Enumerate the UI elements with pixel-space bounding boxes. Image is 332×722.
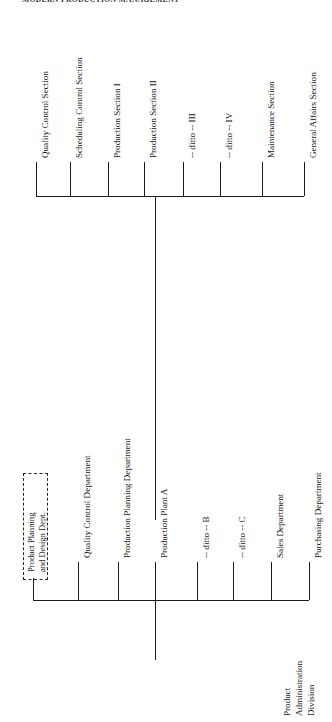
level2-spine [36,196,304,197]
diagram-page: MODERN PRODUCTION MANAGEMENT Product Adm… [0,0,332,722]
connector-n6 [233,562,234,600]
level2-label-m3: Production Section I [112,83,124,158]
riser-to-level2 [155,196,156,520]
level2-label-m8: General Affairs Section [308,72,320,158]
level1-label-n1-line2: and Design Dept. [37,512,47,572]
connector-m4 [144,162,145,196]
level1-label-n5: -- ditto -- B [201,516,213,558]
level2-label-m5: -- ditto -- III [187,113,199,158]
level2-label-m7: Maintenance Section [266,81,278,158]
level1-label-n1-line1: Product Planning [26,513,36,572]
level1-label-n2: Quality Control Department [82,455,94,558]
connector-n8 [309,562,310,600]
level1-label-n8: Purchasing Department [313,472,325,558]
connector-n4 [155,562,156,600]
level2-label-m1: Quality Control Section [40,71,52,158]
connector-m1 [36,162,37,196]
connector-n5 [197,562,198,600]
root-stem [155,600,156,660]
connector-m2 [70,162,71,196]
level1-spine [33,600,309,601]
connector-m3 [108,162,109,196]
level1-label-n6: -- ditto -- C [237,516,249,558]
connector-n7 [271,562,272,600]
connector-m6 [220,162,221,196]
connector-m8 [304,162,305,196]
level2-label-m6: -- ditto -- IV [224,113,236,158]
connector-n2 [78,562,79,600]
level2-label-m4: Production Section II [148,80,160,158]
level1-label-n4: Production Plant A [159,489,171,558]
connector-m5 [183,162,184,196]
connector-n3 [118,562,119,600]
connector-m7 [262,162,263,196]
connector-n1 [33,578,34,600]
level1-label-n1: Product Planningand Design Dept. [26,472,46,572]
level2-label-m2: Scheduling Control Section [74,57,86,158]
level1-label-n3: Production Planning Department [122,438,134,558]
running-head: MODERN PRODUCTION MANAGEMENT [22,0,179,4]
root-node-label: Product Administration Division [281,620,317,716]
level1-label-n7: Sales Department [275,494,287,558]
